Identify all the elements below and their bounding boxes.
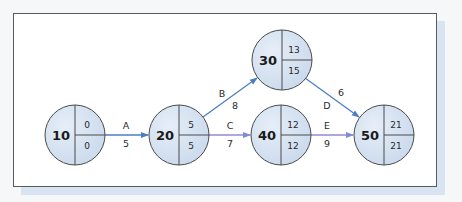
network-diagram: A 5 B 8 C 7 D 6 E 9 10 0 0 20 5 5 (0, 0, 462, 202)
edge-a: A 5 (105, 120, 148, 149)
node-20-id: 20 (156, 128, 174, 143)
node-30-id: 30 (259, 53, 277, 68)
edge-a-duration: 5 (123, 138, 129, 149)
node-20-late: 5 (188, 141, 194, 151)
node-20-early: 5 (188, 120, 194, 130)
node-30: 30 13 15 (252, 30, 312, 90)
node-50-late: 21 (390, 141, 401, 151)
edge-d-duration: 6 (338, 87, 344, 98)
node-10-late: 0 (84, 141, 90, 151)
edge-d-activity: D (323, 100, 330, 111)
node-30-late: 15 (288, 66, 299, 76)
edge-a-activity: A (123, 120, 130, 131)
node-10: 10 0 0 (45, 105, 105, 165)
edge-b-duration: 8 (232, 100, 238, 111)
edge-e-duration: 9 (324, 138, 330, 149)
edge-b: B 8 (203, 78, 257, 117)
edge-b-activity: B (219, 88, 226, 99)
node-40-late: 12 (287, 141, 298, 151)
node-30-early: 13 (288, 45, 299, 55)
node-40-early: 12 (287, 120, 298, 130)
node-50: 50 21 21 (354, 105, 414, 165)
edge-d: D 6 (305, 78, 359, 117)
edge-c-duration: 7 (227, 138, 233, 149)
node-50-id: 50 (361, 128, 379, 143)
edge-c-activity: C (227, 120, 234, 131)
edge-c: C 7 (209, 120, 250, 149)
edge-e: E 9 (311, 120, 353, 149)
edge-e-activity: E (324, 120, 330, 131)
node-50-early: 21 (390, 120, 401, 130)
node-20: 20 5 5 (149, 105, 209, 165)
node-10-id: 10 (52, 128, 70, 143)
node-40: 40 12 12 (251, 105, 311, 165)
node-10-early: 0 (84, 120, 90, 130)
node-40-id: 40 (258, 128, 276, 143)
